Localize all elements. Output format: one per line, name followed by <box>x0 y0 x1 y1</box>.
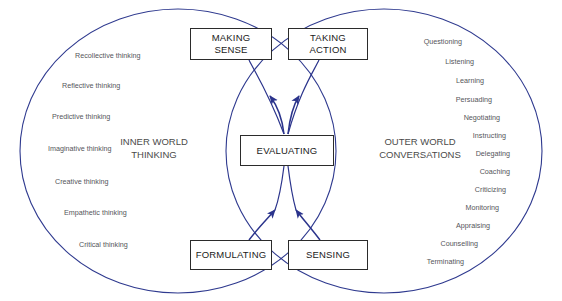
region-label-outer-world: OUTER WORLD CONVERSATIONS <box>364 136 476 161</box>
node-taking-action[interactable]: TAKING ACTION <box>288 28 368 60</box>
node-taking-action-line2: ACTION <box>309 44 346 56</box>
node-making-sense-line1: MAKING <box>212 32 251 44</box>
inner-world-item-3: Imaginative thinking <box>48 144 112 153</box>
outer-world-item-3: Persuading <box>456 95 492 104</box>
outer-world-item-4: Negotiating <box>464 113 500 122</box>
outer-world-item-5: Instructing <box>473 131 506 140</box>
outer-world-item-8: Criticizing <box>475 185 506 194</box>
node-making-sense[interactable]: MAKING SENSE <box>190 28 272 60</box>
region-label-outer-world-line2: CONVERSATIONS <box>364 149 476 162</box>
node-evaluating[interactable]: EVALUATING <box>240 135 334 166</box>
outer-world-item-12: Terminating <box>427 257 464 266</box>
node-evaluating-line1: EVALUATING <box>257 145 318 157</box>
region-label-inner-world: INNER WORLD THINKING <box>105 136 203 161</box>
arrow-tail-sensing <box>288 166 296 210</box>
node-sensing[interactable]: SENSING <box>288 240 368 270</box>
inner-world-item-0: Recollective thinking <box>75 51 141 60</box>
region-label-outer-world-line1: OUTER WORLD <box>364 136 476 149</box>
outer-world-item-1: Listening <box>445 57 474 66</box>
node-sensing-line1: SENSING <box>306 249 350 261</box>
inner-world-item-5: Empathetic thinking <box>64 208 127 217</box>
outer-world-item-11: Counselling <box>440 239 478 248</box>
node-making-sense-line2: SENSE <box>214 44 247 56</box>
outer-world-item-6: Delegating <box>476 149 510 158</box>
inner-world-item-1: Reflective thinking <box>62 81 120 90</box>
diagram-canvas: MAKING SENSE TAKING ACTION EVALUATING FO… <box>0 0 562 301</box>
node-formulating-line1: FORMULATING <box>196 249 267 261</box>
arrow-formulating-to-evaluating <box>249 210 275 240</box>
region-label-inner-world-line2: THINKING <box>105 149 203 162</box>
outer-world-item-7: Coaching <box>480 167 510 176</box>
node-taking-action-line1: TAKING <box>310 32 346 44</box>
outer-world-item-2: Learning <box>456 76 484 85</box>
outer-world-item-9: Monitoring <box>465 203 499 212</box>
arrow-tail-taking-action <box>288 60 319 134</box>
outer-world-item-10: Appraising <box>456 221 490 230</box>
inner-world-item-6: Critical thinking <box>79 240 128 249</box>
arrow-sensing-to-evaluating <box>296 210 320 240</box>
outer-world-item-0: Questioning <box>424 37 462 46</box>
inner-world-item-4: Creative thinking <box>55 177 109 186</box>
arrow-tail-formulating <box>275 166 284 210</box>
node-formulating[interactable]: FORMULATING <box>190 240 272 270</box>
inner-world-item-2: Predictive thinking <box>52 112 110 121</box>
region-label-inner-world-line1: INNER WORLD <box>105 136 203 149</box>
arrow-tail-making-sense <box>249 60 284 134</box>
